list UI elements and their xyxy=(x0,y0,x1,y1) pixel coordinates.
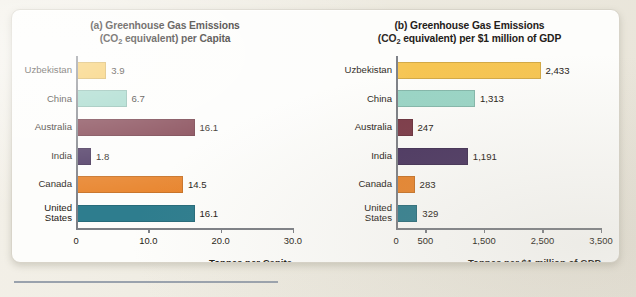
chart-a-title: (a) Greenhouse Gas Emissions (CO2 equiva… xyxy=(12,19,318,46)
chart-a-value-india: 1.8 xyxy=(96,151,109,162)
chart-a-barwrap-canada: 14.5 xyxy=(78,170,314,199)
chart-b-title-subscript: 2 xyxy=(396,37,400,46)
chart-b-tickmark-3500 xyxy=(601,228,602,233)
chart-b-title: (b) Greenhouse Gas Emissions (CO2 equiva… xyxy=(318,19,620,46)
chart-b-x-ticks: 0 500 1,500 2,500 xyxy=(318,228,620,254)
chart-a-title-line1: (a) Greenhouse Gas Emissions xyxy=(12,19,318,32)
chart-b-title-rest: equivalent) per $1 million of GDP xyxy=(400,33,561,44)
chart-a-x-axis-title: Tonnes per Capita xyxy=(12,257,292,263)
chart-a-tickmark-20 xyxy=(221,228,222,233)
chart-b-row-china: China 1,313 xyxy=(318,85,620,114)
chart-a-row-australia: Australia 16.1 xyxy=(12,113,318,142)
chart-b-value-china: 1,313 xyxy=(480,93,504,104)
chart-b-bar-canada[interactable] xyxy=(398,176,415,193)
chart-b-value-india: 1,191 xyxy=(473,151,497,162)
chart-a-label-uzbekistan: Uzbekistan xyxy=(12,56,72,85)
chart-b-label-states: States xyxy=(365,213,392,224)
chart-a-label-australia: Australia xyxy=(12,113,72,142)
chart-a-x-ticks: 0 10.0 20.0 30.0 xyxy=(12,228,318,254)
chart-b-ticklabel-0: 0 xyxy=(393,235,398,246)
page-background: (a) Greenhouse Gas Emissions (CO2 equiva… xyxy=(0,0,636,297)
chart-b-bar-uzbekistan[interactable] xyxy=(398,62,541,79)
chart-panel-a: (a) Greenhouse Gas Emissions (CO2 equiva… xyxy=(12,10,318,262)
chart-a-value-australia: 16.1 xyxy=(200,122,219,133)
chart-a-barwrap-united-states: 16.1 xyxy=(78,199,314,228)
chart-a-bar-uzbekistan[interactable] xyxy=(78,62,106,79)
chart-b-tickmark-2500 xyxy=(542,228,543,233)
chart-b-row-uzbekistan: Uzbekistan 2,433 xyxy=(318,56,620,85)
chart-b-label-australia: Australia xyxy=(328,113,392,142)
chart-b-ticklabel-500: 500 xyxy=(417,235,433,246)
chart-b-label-canada: Canada xyxy=(328,170,392,199)
chart-b-row-canada: Canada 283 xyxy=(318,170,620,199)
chart-a-value-uzbekistan: 3.9 xyxy=(111,65,124,76)
chart-b-barwrap-uzbekistan: 2,433 xyxy=(398,56,617,85)
chart-a-value-china: 6.7 xyxy=(132,93,145,104)
chart-b-barwrap-australia: 247 xyxy=(398,113,617,142)
chart-b-row-united-states: United States 329 xyxy=(318,199,620,228)
chart-b-label-india: India xyxy=(328,142,392,171)
chart-a-ticklabel-0: 0 xyxy=(73,235,78,246)
chart-b-barwrap-united-states: 329 xyxy=(398,199,617,228)
chart-a-bar-india[interactable] xyxy=(78,148,91,165)
chart-a-label-canada: Canada xyxy=(12,170,72,199)
chart-b-row-australia: Australia 247 xyxy=(318,113,620,142)
chart-b-bar-india[interactable] xyxy=(398,148,468,165)
chart-a-title-subscript: 2 xyxy=(118,37,122,46)
chart-a-title-co: (CO xyxy=(100,33,119,44)
chart-b-ticklabel-2500: 2,500 xyxy=(531,235,554,246)
chart-b-label-china: China xyxy=(328,85,392,114)
chart-b-barwrap-india: 1,191 xyxy=(398,142,617,171)
chart-a-row-china: China 6.7 xyxy=(12,85,318,114)
chart-a-row-india: India 1.8 xyxy=(12,142,318,171)
chart-a-barwrap-india: 1.8 xyxy=(78,142,314,171)
figure-panel-inner: (a) Greenhouse Gas Emissions (CO2 equiva… xyxy=(12,10,619,262)
chart-a-row-canada: Canada 14.5 xyxy=(12,170,318,199)
chart-a-row-uzbekistan: Uzbekistan 3.9 xyxy=(12,56,318,85)
chart-b-bar-australia[interactable] xyxy=(398,119,413,136)
chart-a-barwrap-china: 6.7 xyxy=(78,85,314,114)
chart-a-bar-australia[interactable] xyxy=(78,119,195,136)
chart-a-bar-rows: Uzbekistan 3.9 China 6.7 xyxy=(12,56,318,228)
chart-b-value-australia: 247 xyxy=(418,122,434,133)
chart-b-title-co: (CO xyxy=(378,33,397,44)
chart-a-value-united-states: 16.1 xyxy=(200,208,219,219)
chart-a-title-rest: equivalent) per Capita xyxy=(122,33,230,44)
chart-a-barwrap-australia: 16.1 xyxy=(78,113,314,142)
chart-b-x-axis-title: Tonnes per $1 million of GDP xyxy=(318,257,601,263)
chart-b-label-united-states: United States xyxy=(328,199,392,228)
chart-a-title-line2: (CO2 equivalent) per Capita xyxy=(12,32,318,46)
chart-a-row-united-states: United States 16.1 xyxy=(12,199,318,228)
chart-b-row-india: India 1,191 xyxy=(318,142,620,171)
chart-b-tickmark-500 xyxy=(425,228,426,233)
chart-a-label-china: China xyxy=(12,85,72,114)
chart-a-barwrap-uzbekistan: 3.9 xyxy=(78,56,314,85)
chart-b-bar-rows: Uzbekistan 2,433 China 1,313 xyxy=(318,56,620,228)
chart-b-bar-china[interactable] xyxy=(398,90,475,107)
chart-a-value-canada: 14.5 xyxy=(188,179,207,190)
chart-a-bar-united-states[interactable] xyxy=(78,205,195,222)
chart-a-ticklabel-20: 20.0 xyxy=(211,235,229,246)
chart-b-barwrap-china: 1,313 xyxy=(398,85,617,114)
chart-a-bar-canada[interactable] xyxy=(78,176,183,193)
chart-a-label-india: India xyxy=(12,142,72,171)
chart-a-ticklabel-30: 30.0 xyxy=(284,235,302,246)
chart-a-label-united-states: United States xyxy=(12,199,72,228)
chart-a-bar-china[interactable] xyxy=(78,90,127,107)
chart-b-ticklabel-3500: 3,500 xyxy=(589,235,612,246)
chart-b-value-canada: 283 xyxy=(420,179,436,190)
chart-b-tickmark-1500 xyxy=(484,228,485,233)
chart-b-plot: Uzbekistan 2,433 China 1,313 xyxy=(318,54,620,262)
chart-a-tickmark-10 xyxy=(148,228,149,233)
footer-divider-rule xyxy=(14,281,278,283)
chart-b-barwrap-canada: 283 xyxy=(398,170,617,199)
chart-a-ticklabel-10: 10.0 xyxy=(139,235,157,246)
chart-b-title-line2: (CO2 equivalent) per $1 million of GDP xyxy=(318,32,620,46)
chart-b-title-line1: (b) Greenhouse Gas Emissions xyxy=(318,19,620,32)
chart-a-plot: Uzbekistan 3.9 China 6.7 xyxy=(12,54,318,262)
chart-a-label-states: States xyxy=(45,213,72,224)
chart-b-label-uzbekistan: Uzbekistan xyxy=(328,56,392,85)
chart-panel-b: (b) Greenhouse Gas Emissions (CO2 equiva… xyxy=(318,10,620,262)
chart-b-bar-united-states[interactable] xyxy=(398,205,417,222)
chart-b-value-united-states: 329 xyxy=(422,208,438,219)
